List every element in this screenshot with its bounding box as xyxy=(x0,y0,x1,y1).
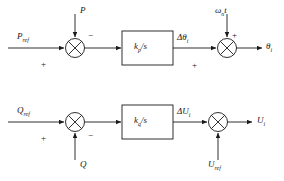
block-kq-label: kq/s xyxy=(134,116,147,127)
label-u-out: Ui xyxy=(257,116,265,127)
label-q-disturbance: Q xyxy=(80,160,87,169)
sign-sum2-plus: + xyxy=(192,61,197,70)
label-p-ref: Pref xyxy=(17,32,29,43)
block-diagram: Pref + P − kp/s Δθi ωnt + + θi Qref + Q … xyxy=(0,0,284,181)
sign-pref-plus: + xyxy=(41,60,46,69)
sign-qref-plus: + xyxy=(41,134,46,143)
diagram-canvas xyxy=(0,0,284,181)
label-delta-u: ΔUi xyxy=(177,107,190,118)
sign-omega-plus: + xyxy=(232,31,237,40)
sign-q-minus: − xyxy=(88,131,93,140)
label-omega-n-t: ωnt xyxy=(215,6,227,17)
label-q-ref: Qref xyxy=(17,106,30,117)
block-kp-over-s xyxy=(122,31,173,65)
sign-p-minus: − xyxy=(88,31,93,40)
label-theta-out: θi xyxy=(266,42,272,53)
block-kq-over-s xyxy=(122,105,173,139)
label-u-ref: Uref xyxy=(208,160,221,171)
block-kp-label: kp/s xyxy=(134,42,147,53)
label-p-disturbance: P xyxy=(80,6,86,15)
label-delta-theta: Δθi xyxy=(177,33,188,44)
